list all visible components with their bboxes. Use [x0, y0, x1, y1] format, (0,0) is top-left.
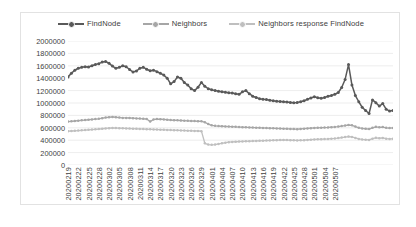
data-point: [272, 127, 275, 130]
data-point: [275, 100, 278, 103]
data-point: [207, 123, 210, 126]
data-point: [358, 138, 361, 141]
data-point: [138, 67, 141, 70]
y-axis-tick-label: 1200000: [36, 86, 65, 95]
data-point: [77, 129, 80, 132]
data-point: [204, 142, 207, 145]
data-point: [306, 127, 309, 130]
x-axis-tick-label: 20200314: [146, 167, 155, 201]
data-point: [238, 126, 241, 129]
data-point: [344, 124, 347, 127]
data-point: [217, 143, 220, 146]
data-point: [320, 126, 323, 128]
data-point: [142, 66, 145, 69]
y-axis-tick-label: 800000: [40, 111, 65, 120]
data-point: [87, 66, 90, 69]
data-point: [169, 119, 172, 122]
data-point: [285, 101, 288, 104]
data-point: [361, 127, 364, 130]
data-point: [316, 127, 319, 130]
data-point: [255, 126, 258, 128]
data-point: [84, 65, 87, 68]
data-point: [231, 141, 234, 144]
y-axis-tick-label: 1800000: [36, 49, 65, 58]
data-point: [186, 129, 189, 132]
data-point: [145, 128, 148, 131]
data-point: [200, 120, 203, 123]
data-point: [210, 144, 213, 147]
data-point: [279, 127, 282, 130]
data-point: [310, 138, 313, 141]
data-point: [193, 120, 196, 123]
data-point: [224, 125, 227, 128]
y-axis-tick-label: 600000: [40, 123, 65, 132]
data-point: [388, 138, 391, 141]
data-point: [245, 140, 248, 143]
legend-item-findnode[interactable]: FindNode: [58, 19, 121, 28]
data-point: [197, 120, 200, 123]
data-point: [351, 136, 354, 139]
data-point: [145, 118, 148, 121]
data-point: [364, 127, 367, 130]
legend-item-neighbors[interactable]: Neighbors: [143, 19, 208, 28]
data-point: [234, 141, 237, 144]
data-point: [183, 129, 186, 132]
data-point: [118, 127, 121, 130]
legend-item-neighbors-response-findnode[interactable]: Neighbors response FindNode: [229, 19, 364, 28]
data-point: [125, 117, 128, 120]
x-axis-tick-label: 20200401: [208, 167, 217, 201]
data-point: [364, 109, 367, 112]
data-point: [152, 118, 155, 121]
data-point: [149, 120, 152, 123]
data-point: [392, 109, 394, 112]
data-point: [286, 128, 289, 131]
x-axis-tick-label: 20200219: [64, 167, 73, 201]
data-point: [70, 130, 73, 133]
data-point: [347, 124, 350, 127]
data-point: [84, 129, 87, 132]
data-point: [289, 128, 292, 131]
data-point: [214, 143, 217, 146]
x-axis-tick-label: 20200228: [95, 167, 104, 201]
data-point: [101, 127, 104, 130]
data-point: [166, 129, 169, 132]
data-point: [378, 105, 381, 108]
x-axis-tick-label: 20200317: [156, 167, 165, 201]
data-point: [251, 126, 254, 129]
data-point: [84, 119, 87, 122]
data-point: [217, 90, 220, 93]
data-point: [210, 124, 213, 127]
data-point: [68, 130, 69, 133]
x-axis: 2020021920200222202002252020022820200302…: [68, 167, 393, 215]
data-point: [241, 140, 244, 143]
data-point: [241, 126, 244, 128]
data-point: [344, 78, 347, 81]
data-point: [163, 129, 166, 132]
data-point: [358, 127, 361, 130]
data-point: [74, 130, 77, 133]
data-point: [200, 81, 203, 84]
legend-dot-icon: [152, 21, 159, 28]
data-point: [282, 139, 285, 142]
data-point: [94, 118, 97, 121]
data-point: [231, 125, 234, 128]
data-point: [293, 139, 296, 142]
line-marker-icon: [229, 19, 255, 28]
data-point: [340, 125, 343, 128]
data-point: [337, 137, 340, 140]
data-point: [203, 85, 206, 88]
data-point: [197, 130, 200, 133]
data-point: [378, 126, 381, 129]
data-point: [361, 138, 364, 141]
data-point: [269, 127, 272, 130]
legend-label-findnode: FindNode: [87, 19, 121, 28]
data-point: [309, 97, 312, 100]
data-point: [248, 126, 251, 128]
y-axis-tick-label: 1600000: [36, 61, 65, 70]
data-point: [357, 100, 360, 103]
x-axis-tick-label: 20200413: [249, 167, 258, 201]
y-axis-tick-label: 2000000: [36, 37, 65, 46]
data-point: [128, 127, 131, 130]
data-point: [293, 128, 296, 131]
plot-svg: [68, 41, 393, 165]
